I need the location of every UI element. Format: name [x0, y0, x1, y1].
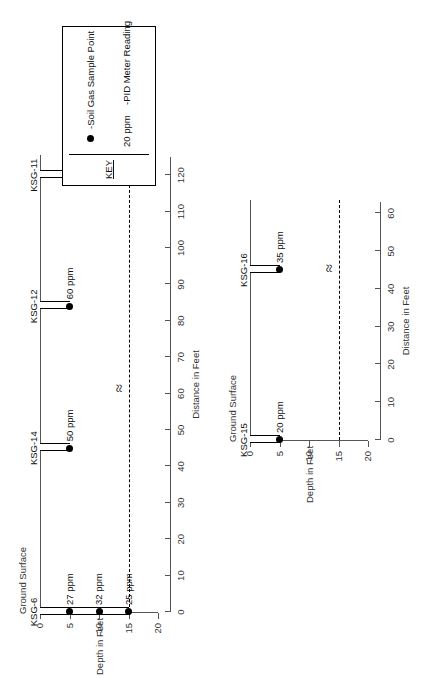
- break-symbol: ≈: [322, 264, 337, 272]
- soil-gas-sample-point: [276, 437, 283, 444]
- distance-axis-tick: [165, 174, 171, 175]
- boring-label: KSG-11: [28, 145, 39, 205]
- distance-axis-tick: [165, 283, 171, 284]
- distance-axis-tick-label: 80: [176, 307, 186, 335]
- distance-axis-tick: [165, 611, 171, 612]
- key-divider: [69, 154, 149, 155]
- pid-reading-label: 50 ppm: [65, 410, 75, 442]
- depth-axis-tick: [158, 613, 159, 619]
- lower-cross-section-panel: Ground Surface≈05101520Depth in Feet0102…: [228, 92, 418, 492]
- boring-label: KSG-15: [238, 410, 249, 470]
- distance-axis-tick-label: 10: [176, 562, 186, 590]
- distance-axis-tick: [375, 250, 381, 251]
- distance-axis-tick: [165, 247, 171, 248]
- distance-axis-tick-label: 30: [176, 489, 186, 517]
- distance-axis-tick-label: 40: [386, 275, 396, 303]
- distance-axis-tick-label: 50: [176, 416, 186, 444]
- depth-axis-title: Depth in Feet: [304, 446, 315, 503]
- pid-reading-label: 32 ppm: [94, 573, 104, 605]
- water-table-line: [339, 200, 340, 440]
- distance-axis-tick: [165, 320, 171, 321]
- depth-axis-tick: [339, 441, 340, 447]
- ground-surface-label: Ground Surface: [228, 375, 238, 442]
- distance-axis-tick: [165, 356, 171, 357]
- ground-surface-label: Ground Surface: [18, 547, 28, 614]
- soil-gas-sample-point: [125, 609, 132, 616]
- distance-axis-tick-label: 10: [386, 388, 396, 416]
- depth-axis-title: Depth in Feet: [94, 618, 105, 675]
- key-pid-value: 20 ppm: [121, 115, 132, 147]
- pid-reading-label: 27 ppm: [65, 573, 75, 605]
- ground-surface-line: [250, 200, 251, 440]
- distance-axis-tick: [375, 401, 381, 402]
- depth-axis-tick-label: 15: [124, 623, 134, 645]
- soil-gas-sample-point: [66, 445, 73, 452]
- distance-axis-tick: [165, 211, 171, 212]
- distance-axis-tick: [375, 439, 381, 440]
- distance-axis-tick: [165, 393, 171, 394]
- distance-axis-tick: [375, 212, 381, 213]
- boring-label: KSG-6: [28, 582, 39, 642]
- distance-axis-title: Distance in Feet: [190, 335, 201, 435]
- boring-label: KSG-12: [28, 276, 39, 336]
- distance-axis-tick-label: 0: [176, 598, 186, 626]
- distance-axis-tick-label: 60: [386, 199, 396, 227]
- distance-axis-tick-label: 110: [176, 198, 186, 226]
- distance-axis-tick: [165, 429, 171, 430]
- distance-axis-tick-label: 90: [176, 270, 186, 298]
- key-legend-box: KEY -Soil Gas Sample Point 20 ppm -PID M…: [62, 26, 156, 186]
- key-title: KEY: [103, 160, 114, 179]
- depth-axis-tick-label: 20: [153, 623, 163, 645]
- depth-axis-tick-label: 15: [334, 451, 344, 473]
- pid-reading-label: 25 ppm: [124, 573, 134, 605]
- distance-axis-line: [380, 202, 381, 440]
- distance-axis-tick: [375, 288, 381, 289]
- boring-label: KSG-14: [28, 418, 39, 478]
- soil-gas-sample-point: [66, 303, 73, 310]
- distance-axis-tick-label: 0: [386, 426, 396, 454]
- depth-axis-tick: [368, 441, 369, 447]
- drawing-canvas: Ground Surface≈05101520Depth in Feet0102…: [0, 0, 426, 678]
- depth-axis-tick-label: 5: [275, 451, 285, 473]
- distance-axis-tick: [375, 326, 381, 327]
- distance-axis-tick-label: 40: [176, 452, 186, 480]
- distance-axis-tick-label: 100: [176, 234, 186, 262]
- distance-axis-title: Distance in Feet: [400, 271, 411, 371]
- boring-casing: [40, 607, 129, 615]
- depth-axis-tick-label: 5: [65, 623, 75, 645]
- upper-cross-section-panel: Ground Surface≈05101520Depth in Feet0102…: [18, 124, 218, 664]
- distance-axis-tick-label: 70: [176, 343, 186, 371]
- pid-reading-label: 35 ppm: [275, 231, 285, 263]
- distance-axis-tick-label: 60: [176, 380, 186, 408]
- distance-axis-tick: [165, 538, 171, 539]
- rotated-drawing-root: Ground Surface≈05101520Depth in Feet0102…: [0, 0, 426, 678]
- break-symbol: ≈: [112, 384, 127, 392]
- depth-axis-tick-label: 20: [363, 451, 373, 473]
- key-pid-label: -PID Meter Reading: [121, 21, 132, 105]
- distance-axis-tick-label: 50: [386, 237, 396, 265]
- soil-gas-sample-point: [276, 267, 283, 274]
- ground-surface-line: [40, 155, 41, 612]
- water-table-line: [129, 155, 130, 612]
- distance-axis-tick: [165, 502, 171, 503]
- distance-axis-tick: [165, 575, 171, 576]
- distance-axis-tick: [165, 465, 171, 466]
- distance-axis-tick-label: 20: [386, 350, 396, 378]
- distance-axis-tick: [375, 363, 381, 364]
- key-sample-point-label: -Soil Gas Sample Point: [85, 31, 96, 129]
- pid-reading-label: 60 ppm: [65, 268, 75, 300]
- distance-axis-line: [170, 157, 171, 612]
- sample-point-icon: [87, 135, 94, 142]
- distance-axis-tick-label: 20: [176, 525, 186, 553]
- boring-label: KSG-16: [238, 240, 249, 300]
- distance-axis-tick-label: 30: [386, 313, 396, 341]
- pid-reading-label: 20 ppm: [275, 401, 285, 433]
- distance-axis-tick-label: 120: [176, 161, 186, 189]
